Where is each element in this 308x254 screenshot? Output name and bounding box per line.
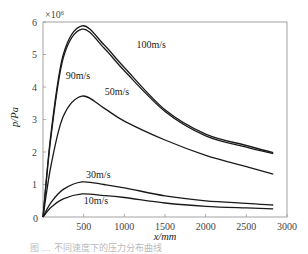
y-tick-label: 4: [32, 82, 37, 93]
x-tick-label: 2000: [196, 221, 216, 232]
x-tick-label: 1000: [114, 221, 134, 232]
x-tick-label: 2500: [236, 221, 256, 232]
plot-frame: [43, 22, 287, 217]
y-tick-label: 5: [32, 49, 37, 60]
y-tick-label: 2: [32, 147, 37, 158]
curve-30m-per-s: [43, 182, 273, 217]
y-tick-label: 1: [32, 179, 37, 190]
curve-labels: 100m/s90m/s50m/s30m/s10m/s: [66, 39, 166, 206]
pressure-line-chart: 500100015002000250030000123456 100m/s90m…: [0, 0, 308, 240]
y-tick-label: 6: [32, 17, 37, 28]
y-multiplier: ×10⁶: [45, 9, 65, 20]
curve-label: 50m/s: [105, 86, 130, 97]
x-tick-label: 500: [76, 221, 91, 232]
figure-caption: 图 … 不同速度下的压力分布曲线: [30, 241, 290, 254]
y-tick-label: 3: [32, 114, 37, 125]
curve-90m-per-s: [43, 29, 273, 217]
data-curves: [43, 26, 273, 217]
curve-label: 10m/s: [84, 195, 109, 206]
x-axis-title: x/mm: [153, 231, 177, 240]
x-tick-label: 3000: [277, 221, 297, 232]
y-axis-title: p/Pa: [9, 107, 20, 128]
curve-label: 30m/s: [86, 169, 111, 180]
x-origin-label: 0: [33, 213, 38, 224]
curve-10m-per-s: [43, 194, 273, 217]
curve-label: 90m/s: [66, 70, 91, 81]
curve-100m-per-s: [43, 26, 273, 217]
curve-50m-per-s: [43, 96, 273, 217]
curve-label: 100m/s: [137, 39, 167, 50]
